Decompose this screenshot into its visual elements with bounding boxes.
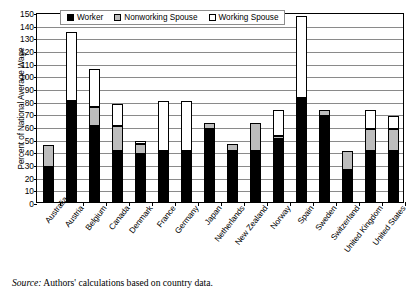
x-axis-labels: AustraliaAustriaBelgiumCanadaDenmarkFran… xyxy=(36,204,404,266)
bar-group xyxy=(66,12,78,202)
bar-segment xyxy=(227,144,239,152)
chart-legend: WorkerNonworking SpouseWorking Spouse xyxy=(60,10,285,25)
bar-segment xyxy=(66,32,78,100)
y-tick-label: 30 xyxy=(25,161,34,171)
bar-segment xyxy=(43,145,55,167)
legend-item-worker: Worker xyxy=(67,13,103,22)
y-tick-label: 150 xyxy=(20,9,34,19)
y-tick-label: 130 xyxy=(20,34,34,44)
filled-square-swatch xyxy=(67,14,74,21)
gray-square-swatch xyxy=(114,14,121,21)
bar-segment xyxy=(273,136,285,139)
bar-segment xyxy=(296,98,308,202)
figure-container: Percent of National Average Wage 0102030… xyxy=(0,0,413,298)
source-label: Source: xyxy=(12,277,41,288)
legend-label: Worker xyxy=(77,13,103,22)
bar-segment xyxy=(273,110,285,137)
bar-segment xyxy=(135,141,147,144)
bar-segment xyxy=(112,151,124,202)
bar-segment xyxy=(227,151,239,202)
bar-group xyxy=(135,12,147,202)
bar-segment xyxy=(204,129,216,202)
bar-segment xyxy=(112,126,124,151)
bar-segment xyxy=(89,126,101,202)
bar-group xyxy=(319,12,331,202)
bar-segment xyxy=(365,129,377,152)
bar-segment xyxy=(43,167,55,202)
bar-segment xyxy=(342,151,354,170)
y-tick-label: 80 xyxy=(25,98,34,108)
bar-segment xyxy=(158,101,170,152)
bar-segment xyxy=(388,129,400,152)
bar-group xyxy=(204,12,216,202)
bar-segment xyxy=(319,116,331,202)
bar-segment xyxy=(135,154,147,202)
legend-item-working-spouse: Working Spouse xyxy=(209,13,279,22)
bar-segment xyxy=(89,69,101,107)
bar-segment xyxy=(319,110,331,116)
bar-segment xyxy=(342,170,354,202)
legend-item-nonworking-spouse: Nonworking Spouse xyxy=(114,13,197,22)
bar-segment xyxy=(89,107,101,126)
bar-group xyxy=(158,12,170,202)
y-tick-label: 50 xyxy=(25,136,34,146)
plot-area: 0102030405060708090100110120130140150 xyxy=(36,13,404,203)
bar-segment xyxy=(273,139,285,202)
y-tick-label: 70 xyxy=(25,110,34,120)
bar-group xyxy=(342,12,354,202)
source-text: Authors' calculations based on country d… xyxy=(41,277,212,288)
empty-square-swatch xyxy=(209,14,216,21)
source-note: Source: Authors' calculations based on c… xyxy=(12,277,213,288)
bar-segment xyxy=(66,101,78,202)
bar-segment xyxy=(388,151,400,202)
bar-group xyxy=(181,12,193,202)
y-tick-label: 120 xyxy=(20,47,34,57)
bar-group xyxy=(365,12,377,202)
bar-group xyxy=(388,12,400,202)
legend-label: Nonworking Spouse xyxy=(124,13,197,22)
bar-group xyxy=(43,12,55,202)
y-tick-label: 110 xyxy=(21,60,34,70)
y-tick-label: 0 xyxy=(29,199,34,209)
bar-segment xyxy=(204,123,216,128)
bar-segment xyxy=(158,151,170,202)
bar-group xyxy=(273,12,285,202)
bar-group xyxy=(250,12,262,202)
bar-segment xyxy=(250,151,262,202)
y-tick-label: 40 xyxy=(25,148,34,158)
bar-group xyxy=(227,12,239,202)
bar-segment xyxy=(365,110,377,129)
bar-segment xyxy=(388,116,400,129)
legend-label: Working Spouse xyxy=(219,13,279,22)
bar-segment xyxy=(365,151,377,202)
bar-segment xyxy=(181,151,193,202)
y-tick-label: 10 xyxy=(25,186,34,196)
y-tick-label: 20 xyxy=(25,174,34,184)
bars-layer xyxy=(37,14,403,202)
bar-segment xyxy=(250,123,262,151)
bar-segment xyxy=(112,104,124,126)
y-tick-label: 100 xyxy=(20,72,34,82)
y-tick-label: 140 xyxy=(20,22,34,32)
bar-segment xyxy=(135,144,147,154)
y-tick-label: 90 xyxy=(25,85,34,95)
bar-group xyxy=(89,12,101,202)
x-tick-mark xyxy=(405,202,406,206)
y-tick-label: 60 xyxy=(25,123,34,133)
x-tick-label: Australia xyxy=(43,204,62,225)
bar-segment xyxy=(296,16,308,98)
bar-group xyxy=(296,12,308,202)
bar-segment xyxy=(181,101,193,152)
bar-group xyxy=(112,12,124,202)
